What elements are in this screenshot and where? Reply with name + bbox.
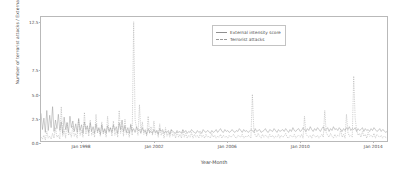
x-tick-label: Jan 1998 [72,144,91,149]
legend-item: External intensity score [216,29,281,36]
y-tick-mark [39,22,41,23]
legend-label: Terrorist attacks [230,36,265,43]
y-tick-mark [39,119,41,120]
x-tick-label: Jan 2014 [364,144,383,149]
legend-item: Terrorist attacks [216,36,281,43]
y-tick-mark [39,70,41,71]
terrorist-attacks-intensity-chart: Number of terrorist attacks / External i… [0,0,408,180]
legend-swatch-line-icon [216,32,227,33]
y-axis-title: Number of terrorist attacks / External i… [12,0,24,94]
y-tick-label: 2.5 [32,116,39,121]
legend-label: External intensity score [230,29,281,36]
y-tick-label: 0.0 [32,141,39,146]
x-tick-label: Jan 2010 [291,144,310,149]
x-tick-label: Jan 2006 [218,144,237,149]
y-tick-label: 7.5 [32,68,39,73]
x-axis-title: Year-Month [40,160,388,165]
y-tick-mark [39,143,41,144]
x-tick-mark [373,141,374,143]
chart-legend: External intensity score Terrorist attac… [212,25,286,46]
x-tick-label: Jan 2002 [145,144,164,149]
y-tick-label: 12.5 [29,19,39,24]
x-tick-mark [81,141,82,143]
legend-swatch-dashed-icon [216,39,227,40]
y-tick-label: 5.0 [32,92,39,97]
x-tick-mark [300,141,301,143]
x-tick-mark [154,141,155,143]
x-tick-mark [227,141,228,143]
y-tick-mark [39,95,41,96]
series-path-0 [41,107,387,135]
